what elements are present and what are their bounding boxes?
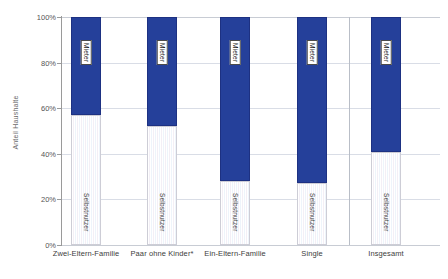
y-tick-label: 60%	[18, 104, 56, 113]
x-axis-label: Zwei-Eltern-Familie	[53, 249, 120, 258]
bar-segment-selbstnutzer[interactable]: Selbstnutzer	[71, 115, 101, 245]
y-axis-title: Anteil Haushalte	[4, 0, 26, 245]
bar-segment-label-selbstnutzer: Selbstnutzer	[82, 191, 91, 234]
x-axis-label: Insgesamt	[368, 249, 404, 258]
bar-segment-label-mieter: Mieter	[381, 40, 392, 65]
bar-segment-mieter[interactable]: Mieter	[147, 17, 177, 126]
chart-container: Anteil Haushalte 0%20%40%60%80%100% Selb…	[0, 0, 448, 279]
bar-segment-selbstnutzer[interactable]: Selbstnutzer	[371, 152, 401, 245]
y-tick-label: 80%	[18, 58, 56, 67]
bar-group[interactable]: SelbstnutzerMieter	[71, 17, 101, 245]
bar-group[interactable]: SelbstnutzerMieter	[147, 17, 177, 245]
bar-segment-label-selbstnutzer: Selbstnutzer	[382, 191, 391, 234]
bar-segment-label-mieter: Mieter	[307, 40, 318, 65]
bar-segment-mieter[interactable]: Mieter	[371, 17, 401, 152]
bar-segment-label-selbstnutzer: Selbstnutzer	[308, 191, 317, 234]
y-tick-label: 0%	[18, 241, 56, 250]
bar-segment-mieter[interactable]: Mieter	[220, 17, 250, 181]
bar-group[interactable]: SelbstnutzerMieter	[297, 17, 327, 245]
category-separator	[349, 17, 350, 245]
bar-segment-selbstnutzer[interactable]: Selbstnutzer	[297, 183, 327, 245]
bar-segment-mieter[interactable]: Mieter	[297, 17, 327, 183]
bar-segment-label-mieter: Mieter	[81, 40, 92, 65]
bar-group[interactable]: SelbstnutzerMieter	[371, 17, 401, 245]
y-tick-label: 20%	[18, 195, 56, 204]
x-axis-label: Paar ohne Kinder*	[131, 249, 194, 258]
bar-segment-selbstnutzer[interactable]: Selbstnutzer	[220, 181, 250, 245]
gridline	[62, 245, 440, 246]
bar-segment-label-selbstnutzer: Selbstnutzer	[231, 191, 240, 234]
y-tick-label: 100%	[18, 13, 56, 22]
x-axis-label: Single	[301, 249, 322, 258]
x-axis-label: Ein-Eltern-Familie	[204, 249, 265, 258]
bar-segment-label-mieter: Mieter	[157, 40, 168, 65]
bar-group[interactable]: SelbstnutzerMieter	[220, 17, 250, 245]
bar-segment-label-mieter: Mieter	[230, 40, 241, 65]
bar-segment-label-selbstnutzer: Selbstnutzer	[158, 191, 167, 234]
bar-segment-selbstnutzer[interactable]: Selbstnutzer	[147, 126, 177, 245]
y-tick-label: 40%	[18, 149, 56, 158]
x-axis-labels: Zwei-Eltern-FamiliePaar ohne Kinder*Ein-…	[62, 249, 440, 269]
plot-area: SelbstnutzerMieterSelbstnutzerMieterSelb…	[62, 17, 440, 245]
bar-segment-mieter[interactable]: Mieter	[71, 17, 101, 115]
